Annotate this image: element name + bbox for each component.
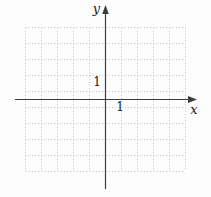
x-tick-label: 1 — [116, 100, 124, 114]
y-axis-label: y — [92, 1, 101, 16]
y-tick-label: 1 — [93, 75, 101, 89]
coordinate-plane-figure: y x 1 1 — [0, 0, 211, 197]
x-axis-label: x — [190, 102, 198, 117]
coordinate-plane: y x 1 1 — [0, 0, 211, 197]
y-axis-arrowhead — [102, 5, 109, 14]
